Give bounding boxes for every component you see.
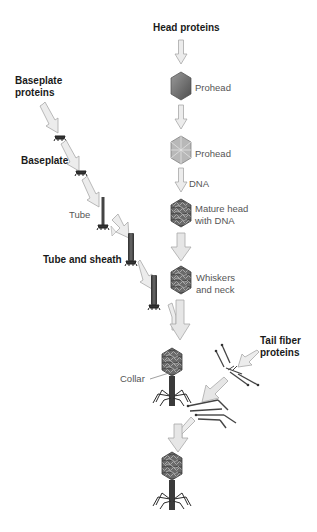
- label-baseplate-proteins-line1: Baseplate: [15, 75, 62, 87]
- prohead-icon: [171, 72, 191, 100]
- label-tube: Tube: [69, 209, 90, 221]
- arrow-merge-head-tail: [168, 300, 190, 340]
- phage-without-fibers-icon: [150, 348, 191, 406]
- baseplate-icon: [75, 171, 87, 176]
- arrow-fibers-to-bundle: [202, 377, 228, 402]
- collar-leader-line: [150, 373, 169, 379]
- label-tail-fiber-line2: proteins: [260, 347, 299, 359]
- arrow-tail-fiber-proteins: [238, 350, 259, 367]
- arrow-baseplate-proteins: [40, 102, 58, 133]
- baseplate-precursor-icon: [54, 136, 66, 141]
- label-prohead-1: Prohead: [195, 82, 231, 94]
- label-baseplate: Baseplate: [21, 155, 68, 167]
- arrow-prohead-to-mature-head: [175, 168, 187, 192]
- mature-head-icon: [171, 199, 191, 227]
- arrow-prohead-to-prohead: [175, 105, 187, 129]
- assembled-tail-fibers-icon: [187, 400, 236, 428]
- label-tail-fiber-line1: Tail fiber: [260, 335, 301, 347]
- whiskers-neck-head-icon: [171, 266, 191, 294]
- arrow-to-tube: [82, 176, 99, 207]
- arrow-to-complete-phage: [168, 417, 195, 452]
- arrow-sheath-to-whiskers-tail: [138, 260, 152, 289]
- label-mature-head-line1: Mature head: [195, 203, 248, 215]
- complete-phage-icon: [153, 452, 191, 510]
- label-dna: DNA: [189, 178, 209, 190]
- arrow-mature-to-whiskers: [171, 233, 191, 261]
- label-baseplate-proteins-line2: proteins: [15, 87, 54, 99]
- arrow-tube-to-sheath: [111, 214, 129, 238]
- arrow-head-proteins-to-prohead: [175, 40, 187, 64]
- label-mature-head-line2: with DNA: [195, 215, 235, 227]
- label-collar: Collar: [120, 373, 145, 385]
- label-whiskers-line2: and neck: [196, 284, 235, 296]
- label-whiskers-line1: Whiskers: [196, 272, 235, 284]
- label-prohead-2: Prohead: [195, 148, 231, 160]
- label-head-proteins: Head proteins: [153, 22, 220, 34]
- tube-and-sheath-icon: [125, 233, 137, 266]
- label-tube-and-sheath: Tube and sheath: [43, 254, 122, 266]
- prohead-expanded-icon: [171, 136, 191, 164]
